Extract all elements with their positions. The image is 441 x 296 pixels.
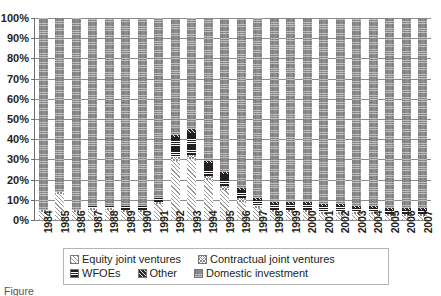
bar-segment [138,18,147,206]
bar-column [184,18,201,220]
legend-item[interactable]: Domestic investment [194,267,308,279]
bar-column [68,18,85,220]
bar-segment [220,174,229,186]
bar-segment [336,204,345,206]
bar-segment [187,133,196,155]
bar-segment [369,206,378,208]
bar-segment [286,202,295,204]
bar-segment [171,18,180,135]
bar-segment [220,172,229,174]
chart-figure: 0%10%20%30%40%50%60%70%80%90%100% 198419… [0,0,441,296]
bar-segment [220,18,229,172]
bar-segment [171,137,180,157]
legend-row-1: Equity joint venturesContractual joint v… [70,252,382,266]
bar-column [415,18,432,220]
stacked-bar [253,18,262,220]
bar-segment [55,192,64,194]
bar-segment [319,204,328,206]
bar-segment [352,206,361,208]
stacked-bar [270,18,279,220]
bar-segment [237,190,246,198]
bar-segment [154,18,163,198]
x-tick-cell: 1984 [35,221,52,257]
y-tick-label: 30% [7,154,29,165]
bar-segment [303,18,312,202]
legend-swatch-icon [70,269,79,278]
x-tick-cell: 2006 [398,221,415,257]
stacked-bar [154,18,163,220]
bar-column [134,18,151,220]
bar-segment [270,18,279,202]
bar-column [316,18,333,220]
bar-segment [39,18,48,210]
bar-column [398,18,415,220]
bar-segment [204,163,213,175]
bar-segment [237,18,246,188]
bar-segment [55,18,64,192]
bar-column [332,18,349,220]
bar-segment [187,18,196,129]
chart-axes [35,18,431,220]
bar-column [101,18,118,220]
bar-segment [253,198,262,200]
chart-plot-area: 0%10%20%30%40%50%60%70%80%90%100% 198419… [0,0,441,240]
legend-label: WFOEs [82,267,121,279]
chart-legend: Equity joint venturesContractual joint v… [63,248,389,285]
bar-series-container [35,18,431,220]
bar-segment [402,18,411,208]
bar-segment [253,200,262,206]
stacked-bar [418,18,427,220]
y-tick-label: 90% [7,33,29,44]
bar-column [266,18,283,220]
bar-column [118,18,135,220]
y-axis-labels: 0%10%20%30%40%50%60%70%80%90%100% [0,0,33,240]
y-tick-label: 40% [7,134,29,145]
legend-swatch-icon [138,269,147,278]
bar-column [52,18,69,220]
bar-segment [253,18,262,198]
bar-column [382,18,399,220]
bar-segment [187,155,196,159]
bar-segment [303,202,312,204]
bar-segment [204,18,213,161]
bar-column [233,18,250,220]
legend-item[interactable]: Equity joint ventures [70,253,181,265]
legend-item[interactable]: Contractual joint ventures [198,253,335,265]
bar-segment [319,18,328,204]
legend-row-2: WFOEsOtherDomestic investment [70,266,382,280]
legend-item[interactable]: WFOEs [70,267,121,279]
bar-segment [385,18,394,208]
legend-swatch-icon [198,255,207,264]
bar-segment [336,18,345,204]
stacked-bar [39,18,48,220]
stacked-bar [385,18,394,220]
bar-column [167,18,184,220]
bar-segment [237,188,246,190]
bar-segment [121,18,130,206]
y-tick-label: 70% [7,73,29,84]
y-tick-label: 80% [7,53,29,64]
stacked-bar [352,18,361,220]
stacked-bar [72,18,81,220]
legend-item[interactable]: Other [138,267,178,279]
y-tick-label: 20% [7,174,29,185]
y-tick-label: 100% [1,13,29,24]
bar-segment [72,18,81,210]
bar-column [35,18,52,220]
stacked-bar [303,18,312,220]
bar-segment [154,202,163,204]
bar-column [200,18,217,220]
bar-segment [418,18,427,208]
stacked-bar [220,18,229,220]
bar-segment [105,206,114,208]
bar-segment [88,206,97,208]
bar-segment [286,18,295,202]
bar-segment [171,135,180,137]
bar-column [349,18,366,220]
stacked-bar [88,18,97,220]
bar-column [85,18,102,220]
bar-segment [270,204,279,210]
stacked-bar [369,18,378,220]
bar-segment [303,204,312,210]
bar-column [365,18,382,220]
